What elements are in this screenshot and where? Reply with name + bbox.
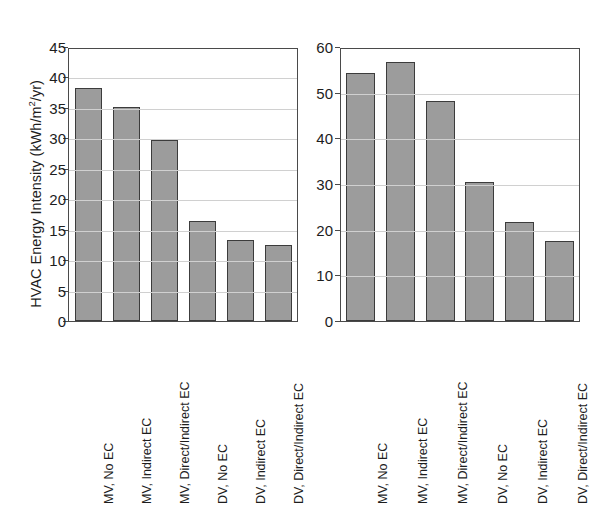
y-axis-tick-label: 5 bbox=[36, 284, 66, 299]
gridline bbox=[341, 276, 579, 277]
panel-oakland: HVAC Energy Intensity (kWh/m2/yr) Oaklan… bbox=[0, 0, 300, 512]
y-axis-tick-label: 45 bbox=[36, 40, 66, 55]
gridline bbox=[341, 94, 579, 95]
x-axis-tick-label: MV, No EC bbox=[377, 443, 390, 504]
x-axis-labels-oakland: MV, No ECMV, Indirect ECMV, Direct/Indir… bbox=[0, 326, 300, 512]
y-axis-tick-label: 40 bbox=[36, 70, 66, 85]
gridline bbox=[69, 231, 297, 232]
gridline bbox=[69, 261, 297, 262]
y-axis-tick-mark bbox=[335, 321, 340, 322]
x-axis-tick-label: MV, Direct/Indirect EC bbox=[457, 382, 470, 505]
bar bbox=[189, 221, 216, 321]
bar bbox=[426, 101, 455, 321]
y-axis-tick-label: 30 bbox=[36, 131, 66, 146]
bar bbox=[265, 245, 292, 321]
y-axis-tick-label: 60 bbox=[303, 40, 333, 55]
x-axis-labels-san-diego: MV, No ECMV, Indirect ECMV, Direct/Indir… bbox=[300, 326, 587, 512]
bar bbox=[227, 240, 254, 321]
x-axis-tick-label: DV, Indirect EC bbox=[537, 419, 550, 504]
gridline bbox=[69, 170, 297, 171]
bar bbox=[505, 222, 534, 321]
gridline bbox=[69, 78, 297, 79]
plot-area-oakland bbox=[68, 48, 298, 322]
gridline bbox=[341, 185, 579, 186]
y-axis-tick-label: 15 bbox=[36, 223, 66, 238]
y-axis-tick-label: 40 bbox=[303, 131, 333, 146]
gridline bbox=[69, 139, 297, 140]
y-axis-tick-label: 10 bbox=[36, 253, 66, 268]
bar bbox=[465, 182, 494, 321]
bar bbox=[545, 241, 574, 321]
gridline bbox=[341, 139, 579, 140]
y-axis-tick-mark bbox=[335, 47, 340, 48]
bar bbox=[386, 62, 415, 321]
x-axis-tick-label: MV, Direct/Indirect EC bbox=[179, 382, 192, 505]
gridline bbox=[341, 231, 579, 232]
x-axis-tick-label: DV, No EC bbox=[217, 444, 230, 504]
x-axis-tick-label: DV, Indirect EC bbox=[255, 419, 268, 504]
bar bbox=[75, 88, 102, 321]
y-axis-tick-label: 20 bbox=[36, 192, 66, 207]
panel-san-diego: San Diego MV, No ECMV, Indirect ECMV, Di… bbox=[300, 0, 587, 512]
gridline bbox=[69, 292, 297, 293]
plot-area-san-diego bbox=[340, 48, 580, 322]
y-axis-tick-mark bbox=[335, 138, 340, 139]
x-axis-tick-label: MV, No EC bbox=[103, 443, 116, 504]
gridline bbox=[69, 200, 297, 201]
bar-group-oakland bbox=[69, 49, 297, 321]
y-axis-tick-label: 35 bbox=[36, 101, 66, 116]
x-axis-tick-label: DV, No EC bbox=[497, 444, 510, 504]
gridline bbox=[69, 109, 297, 110]
y-axis-tick-mark bbox=[335, 93, 340, 94]
y-axis-tick-mark bbox=[335, 275, 340, 276]
y-axis-tick-label: 50 bbox=[303, 86, 333, 101]
y-axis-tick-label: 0 bbox=[36, 314, 66, 329]
y-axis-tick-mark bbox=[335, 184, 340, 185]
y-axis-tick-label: 0 bbox=[303, 314, 333, 329]
bar bbox=[346, 73, 375, 321]
x-axis-tick-label: MV, Indirect EC bbox=[141, 418, 154, 504]
y-axis-tick-mark bbox=[335, 230, 340, 231]
y-axis-tick-label: 25 bbox=[36, 162, 66, 177]
x-axis-tick-label: MV, Indirect EC bbox=[417, 418, 430, 504]
x-axis-tick-label: DV, Direct/Indirect EC bbox=[577, 383, 590, 504]
y-axis-tick-label: 10 bbox=[303, 268, 333, 283]
y-axis-tick-label: 20 bbox=[303, 223, 333, 238]
y-axis-tick-label: 30 bbox=[303, 177, 333, 192]
